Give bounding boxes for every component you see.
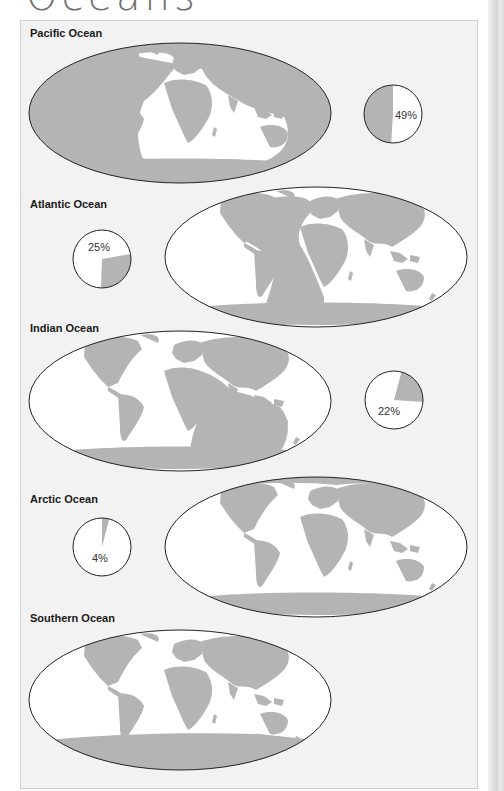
pie-label-indian: 22%	[378, 405, 400, 417]
oceans-figure: 49% 25% 22%	[0, 0, 504, 791]
map-pacific	[29, 43, 331, 183]
map-indian	[29, 331, 331, 471]
pie-arctic	[73, 518, 131, 576]
pie-atlantic	[73, 230, 131, 288]
map-atlantic	[165, 187, 467, 327]
pie-label-arctic: 4%	[92, 552, 108, 564]
pie-label-atlantic: 25%	[88, 241, 110, 253]
map-southern	[29, 630, 331, 770]
pie-indian	[365, 371, 423, 429]
pie-label-pacific: 49%	[395, 109, 417, 121]
map-arctic	[165, 477, 467, 617]
